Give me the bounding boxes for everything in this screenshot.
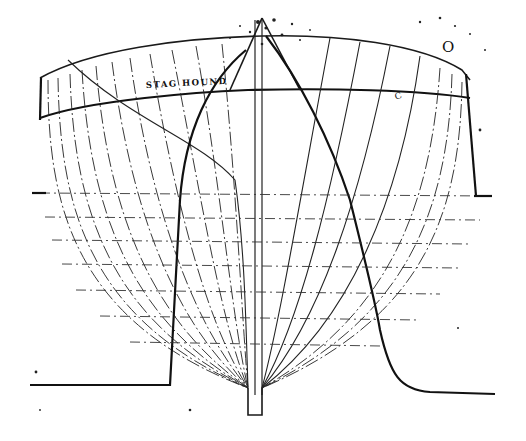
stem-edge	[466, 74, 476, 196]
stern-edge	[40, 78, 41, 120]
waterlines	[40, 193, 490, 346]
stern-profile	[30, 50, 246, 385]
ship-body-plan: STAG HOUND	[0, 0, 526, 441]
ink-speckle	[35, 17, 486, 412]
corner-mark: O	[442, 38, 454, 56]
aft-stations	[48, 44, 248, 388]
peak-diagonal-left	[230, 18, 262, 90]
